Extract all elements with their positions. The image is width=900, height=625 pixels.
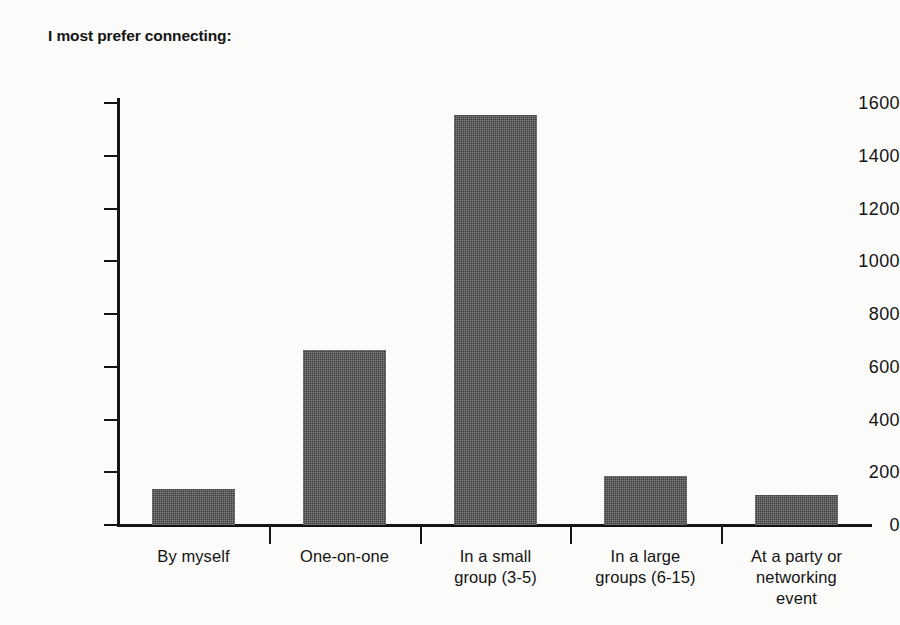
x-axis-category-label-line: group (3-5) [420,567,571,588]
bar [454,115,537,525]
x-axis-category-label-line: In a large [570,546,721,567]
x-axis-category-label-line: In a small [420,546,571,567]
y-axis-tick [104,313,118,315]
y-axis-tick [104,102,118,104]
y-axis-tick-label: 1200 [804,198,900,219]
x-axis-separator-tick [570,527,572,544]
bar [755,495,838,525]
bar [152,489,235,525]
y-axis-tick [104,471,118,473]
x-axis-category-label-line: By myself [118,546,269,567]
x-axis-category-label-line: event [721,588,872,609]
y-axis-tick-label: 600 [804,356,900,377]
y-axis-tick [104,208,118,210]
y-axis-tick-label: 1600 [804,93,900,114]
y-axis-tick [104,419,118,421]
x-axis-category-label: One-on-one [269,546,420,567]
x-axis-category-label-line: One-on-one [269,546,420,567]
plot-area: 02004006008001000120014001600 By myselfO… [0,0,900,625]
y-axis-tick-label: 800 [804,304,900,325]
x-axis-separator-tick [420,527,422,544]
y-axis-tick-label: 400 [804,409,900,430]
x-axis-separator-tick [269,527,271,544]
bar-chart: I most prefer connecting: 02004006008001… [0,0,900,625]
x-axis-category-label-line: groups (6-15) [570,567,721,588]
x-axis-category-label: In a smallgroup (3-5) [420,546,571,588]
y-axis-tick-label: 1000 [804,251,900,272]
x-axis-category-label: By myself [118,546,269,567]
bar [604,476,687,525]
x-axis-separator-tick [721,527,723,544]
y-axis-tick [104,155,118,157]
y-axis-tick [104,260,118,262]
bar [303,350,386,525]
y-axis-tick [104,366,118,368]
y-axis-tick-label: 1400 [804,145,900,166]
x-axis-category-label: At a party ornetworkingevent [721,546,872,609]
y-axis-tick-label: 200 [804,462,900,483]
x-axis-category-label: In a largegroups (6-15) [570,546,721,588]
y-axis-tick [104,524,118,526]
x-axis-category-label-line: networking [721,567,872,588]
x-axis-category-label-line: At a party or [721,546,872,567]
